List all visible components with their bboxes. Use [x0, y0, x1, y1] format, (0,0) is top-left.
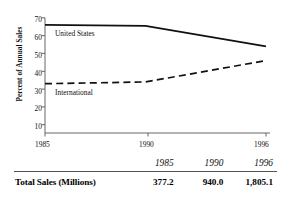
sales-table-area: 1985 1990 1996 Total Sales (Millions) 37…	[0, 158, 283, 212]
line-chart: Percent of Annual Sales 70 60 50 40 30 2…	[0, 0, 283, 158]
table-header-row: 1985 1990 1996	[14, 158, 277, 172]
table-cell-1996: 1,805.1	[227, 172, 277, 189]
table-row-label: Total Sales (Millions)	[14, 172, 128, 189]
table-cell-1985: 377.2	[128, 172, 178, 189]
table-header-blank	[14, 158, 128, 172]
figure-total-sales: Percent of Annual Sales 70 60 50 40 30 2…	[0, 0, 283, 212]
table-header-1990: 1990	[178, 158, 228, 172]
chart-plot-svg	[0, 0, 283, 158]
total-sales-table: 1985 1990 1996 Total Sales (Millions) 37…	[14, 158, 277, 188]
series-line-united-states	[45, 25, 266, 46]
series-line-international	[45, 61, 266, 84]
table-cell-1990: 940.0	[178, 172, 228, 189]
table-row: Total Sales (Millions) 377.2 940.0 1,805…	[14, 172, 277, 189]
table-header-1996: 1996	[227, 158, 277, 172]
table-header-1985: 1985	[128, 158, 178, 172]
